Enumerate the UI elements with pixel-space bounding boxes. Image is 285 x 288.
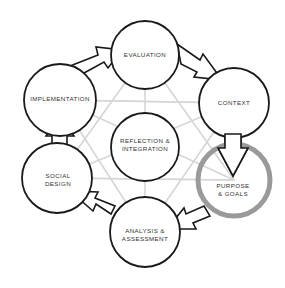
label-line: ASSESSMENT — [122, 235, 168, 243]
label-line: ANALYSIS & — [122, 227, 168, 235]
label-line: & GOALS — [216, 190, 249, 198]
label-line: DESIGN — [45, 180, 71, 188]
label-line: REFLECTION & — [120, 137, 170, 145]
label-purpose: PURPOSE & GOALS — [216, 182, 249, 198]
label-reflection: REFLECTION & INTEGRATION — [120, 137, 170, 153]
label-line: INTEGRATION — [120, 145, 170, 153]
label-analysis: ANALYSIS & ASSESSMENT — [122, 227, 168, 243]
label-line: SOCIAL — [45, 172, 71, 180]
label-line: IMPLEMENTATION — [30, 95, 90, 103]
label-implementation: IMPLEMENTATION — [30, 95, 90, 103]
label-evaluation: EVALUATION — [124, 51, 166, 59]
arrow-context-to-purpose-tip — [218, 134, 248, 176]
label-line: PURPOSE — [216, 182, 249, 190]
label-line: CONTEXT — [218, 99, 250, 107]
label-line: EVALUATION — [124, 51, 166, 59]
label-social: SOCIAL DESIGN — [45, 172, 71, 188]
label-context: CONTEXT — [218, 99, 250, 107]
